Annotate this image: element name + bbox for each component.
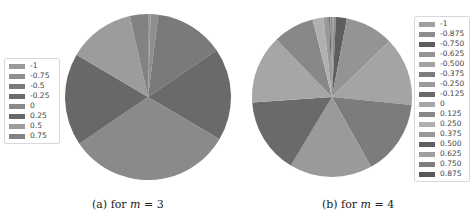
legend-label: -0.250 [440,79,464,89]
legend-label: 0 [440,99,445,109]
legend-item: 0 [9,101,55,111]
caption-b-prefix: (b) for [322,198,361,211]
legend-swatch [419,172,435,177]
legend-item: -0.875 [419,29,465,39]
legend-label: -0.375 [440,69,464,79]
caption-b-var: m [361,198,371,211]
legend-label: -0.125 [440,89,464,99]
legend-label: 0.875 [440,169,461,179]
legend-item: 0.125 [419,109,465,119]
legend-item: 0.500 [419,139,465,149]
legend-item: -0.375 [419,69,465,79]
legend-swatch [419,82,435,87]
legend-b: -1-0.875-0.750-0.625-0.500-0.375-0.250-0… [414,16,470,182]
legend-item: 0.875 [419,169,465,179]
legend-item: -1 [419,19,465,29]
caption-a-var: m [130,198,140,211]
legend-swatch [9,124,25,129]
legend-item: -0.250 [419,79,465,89]
legend-swatch [419,132,435,137]
legend-swatch [9,64,25,69]
legend-swatch [419,152,435,157]
legend-label: 0.750 [440,159,461,169]
legend-label: -0.750 [440,39,464,49]
legend-swatch [419,122,435,127]
legend-swatch [9,134,25,139]
pie-chart-a [64,13,232,181]
legend-label: -0.625 [440,49,464,59]
legend-swatch [419,162,435,167]
legend-item: 0.250 [419,119,465,129]
legend-swatch [9,104,25,109]
legend-swatch [419,42,435,47]
legend-label: -1 [440,19,447,29]
legend-label: 0.250 [440,119,461,129]
legend-swatch [9,114,25,119]
legend-item: -0.750 [419,39,465,49]
legend-swatch [419,52,435,57]
legend-swatch [419,22,435,27]
legend-item: 0.5 [9,121,55,131]
legend-swatch [419,92,435,97]
legend-swatch [419,142,435,147]
caption-a-suffix: = 3 [141,198,164,211]
legend-label: 0.125 [440,109,461,119]
legend-label: -1 [30,61,37,71]
legend-item: -0.625 [419,49,465,59]
caption-a: (a) for m = 3 [92,198,164,211]
legend-swatch [419,112,435,117]
legend-swatch [419,102,435,107]
legend-label: 0.625 [440,149,461,159]
legend-a: -1-0.75-0.5-0.2500.250.50.75 [4,58,60,144]
legend-item: 0.625 [419,149,465,159]
legend-item: -1 [9,61,55,71]
legend-item: 0.375 [419,129,465,139]
legend-item: -0.500 [419,59,465,69]
pie-chart-b [251,16,413,178]
legend-item: -0.25 [9,91,55,101]
legend-label: -0.75 [30,71,49,81]
legend-label: 0.500 [440,139,461,149]
legend-swatch [419,32,435,37]
caption-b-suffix: = 4 [371,198,394,211]
legend-swatch [9,84,25,89]
legend-label: -0.5 [30,81,45,91]
legend-label: 0 [30,101,35,111]
legend-item: 0.750 [419,159,465,169]
legend-swatch [9,94,25,99]
legend-item: 0.75 [9,131,55,141]
caption-a-prefix: (a) for [92,198,130,211]
legend-item: -0.125 [419,89,465,99]
legend-item: -0.5 [9,81,55,91]
legend-label: 0.5 [30,121,42,131]
caption-b: (b) for m = 4 [322,198,394,211]
legend-item: 0.25 [9,111,55,121]
legend-label: -0.25 [30,91,49,101]
legend-label: 0.75 [30,131,47,141]
legend-swatch [419,72,435,77]
legend-item: 0 [419,99,465,109]
legend-item: -0.75 [9,71,55,81]
legend-swatch [419,62,435,67]
legend-label: 0.25 [30,111,47,121]
legend-label: -0.500 [440,59,464,69]
legend-swatch [9,74,25,79]
legend-label: -0.875 [440,29,464,39]
legend-label: 0.375 [440,129,461,139]
